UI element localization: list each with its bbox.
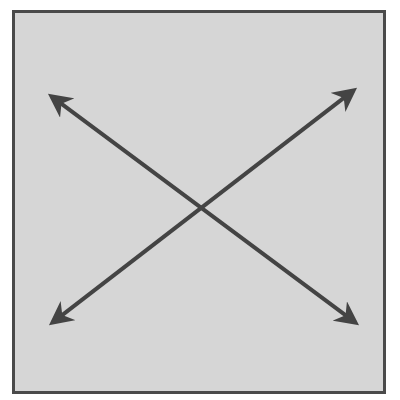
crossing-arrows-diagram (0, 0, 400, 400)
diagram-box (14, 12, 385, 393)
